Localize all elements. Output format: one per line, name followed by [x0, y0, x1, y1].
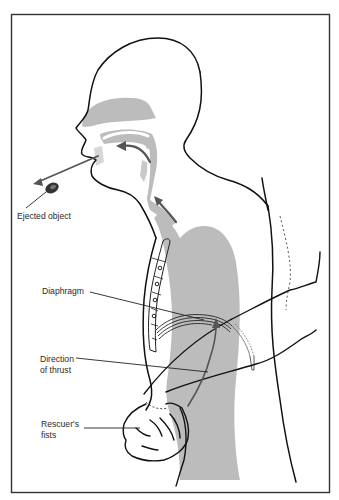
label-direction-line2: of thrust [40, 365, 72, 375]
airway-shading [82, 98, 240, 480]
label-direction-line1: Direction [40, 354, 74, 364]
label-fists-line2: fists [41, 430, 56, 440]
label-diaphragm: Diaphragm [42, 286, 84, 296]
label-fists-line1: Rescuer's [41, 419, 79, 429]
label-ejected-object: Ejected object [17, 211, 72, 221]
heimlich-diagram: Ejected object Diaphragm Direction of th… [0, 0, 339, 500]
ejected-object [44, 181, 61, 196]
